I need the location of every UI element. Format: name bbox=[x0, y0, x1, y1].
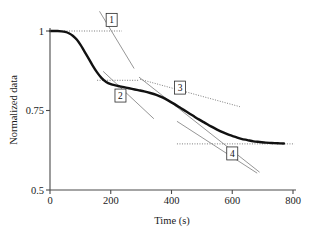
chart-figure: 0.50.7510200400600800 1234 Time (s) Norm… bbox=[0, 0, 315, 229]
x-axis-tick-label: 800 bbox=[285, 195, 301, 206]
tangent-lines-layer bbox=[52, 11, 295, 173]
x-axis-tick-label: 200 bbox=[103, 195, 119, 206]
annotation-number-1: 1 bbox=[109, 15, 114, 25]
y-axis-tick-label: 0.75 bbox=[26, 105, 44, 116]
annotation-number-3: 3 bbox=[178, 83, 183, 93]
annotation-label-1: 1 bbox=[106, 13, 117, 26]
tangent-line-3 bbox=[139, 77, 260, 172]
annotation-label-2: 2 bbox=[115, 89, 126, 102]
annotation-number-2: 2 bbox=[118, 91, 123, 101]
y-axis-tick-label: 1 bbox=[39, 26, 44, 37]
y-axis-title: Normalized data bbox=[8, 75, 19, 145]
axes-layer bbox=[50, 28, 296, 190]
tangent-line-2 bbox=[103, 71, 154, 118]
x-axis-tick-label: 0 bbox=[47, 195, 52, 206]
tangent-line-3 bbox=[140, 79, 240, 106]
annotation-number-4: 4 bbox=[230, 149, 235, 159]
x-axis-tick-label: 600 bbox=[224, 195, 240, 206]
data-curve bbox=[50, 31, 284, 144]
annotation-label-3: 3 bbox=[175, 81, 186, 94]
annotation-label-4: 4 bbox=[227, 147, 238, 160]
data-curve-layer bbox=[50, 31, 284, 144]
y-axis-tick-label: 0.5 bbox=[31, 185, 44, 196]
x-axis-tick-label: 400 bbox=[164, 195, 180, 206]
normalized-data-decay-chart: 0.50.7510200400600800 1234 Time (s) Norm… bbox=[0, 0, 315, 229]
x-axis-title: Time (s) bbox=[154, 215, 190, 227]
tick-labels-layer: 0.50.7510200400600800 bbox=[26, 26, 301, 207]
